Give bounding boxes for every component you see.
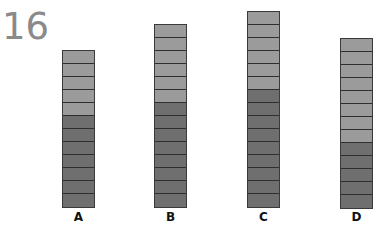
dark-segment (248, 103, 279, 116)
dark-segment (155, 103, 186, 116)
light-segment (63, 103, 94, 116)
light-segment (155, 51, 186, 64)
dark-segment (63, 168, 94, 181)
dark-segment (63, 129, 94, 142)
dark-segment (63, 142, 94, 155)
dark-segment (63, 155, 94, 168)
dark-segment (341, 143, 372, 156)
dark-segment (341, 169, 372, 182)
dark-segment (248, 129, 279, 142)
light-segment (155, 38, 186, 51)
dark-segment (248, 155, 279, 168)
dark-segment (341, 182, 372, 195)
column-label-c: C (247, 210, 280, 224)
dark-segment (248, 168, 279, 181)
column-a (62, 50, 95, 208)
light-segment (341, 117, 372, 130)
dark-segment (248, 194, 279, 207)
dark-segment (155, 142, 186, 155)
dark-segment (63, 181, 94, 194)
light-segment (63, 77, 94, 90)
light-segment (155, 77, 186, 90)
light-segment (63, 51, 94, 64)
dark-segment (155, 155, 186, 168)
light-segment (248, 38, 279, 51)
dark-segment (341, 156, 372, 169)
light-segment (248, 64, 279, 77)
column-label-b: B (154, 210, 187, 224)
dark-segment (155, 168, 186, 181)
light-segment (155, 90, 186, 103)
column-label-d: D (340, 210, 373, 224)
dark-segment (155, 194, 186, 207)
light-segment (248, 77, 279, 90)
dark-segment (155, 116, 186, 129)
dark-segment (248, 90, 279, 103)
dark-segment (341, 195, 372, 208)
light-segment (248, 12, 279, 25)
light-segment (341, 39, 372, 52)
light-segment (63, 64, 94, 77)
light-segment (155, 25, 186, 38)
light-segment (341, 91, 372, 104)
dark-segment (248, 142, 279, 155)
dark-segment (155, 129, 186, 142)
light-segment (341, 65, 372, 78)
light-segment (341, 52, 372, 65)
light-segment (63, 90, 94, 103)
dark-segment (248, 181, 279, 194)
column-label-a: A (62, 210, 95, 224)
light-segment (341, 130, 372, 143)
light-segment (341, 78, 372, 91)
light-segment (248, 25, 279, 38)
column-d (340, 38, 373, 209)
question-number: 16 (2, 7, 49, 47)
dark-segment (155, 181, 186, 194)
column-c (247, 11, 280, 208)
light-segment (155, 64, 186, 77)
dark-segment (63, 194, 94, 207)
dark-segment (248, 116, 279, 129)
dark-segment (63, 116, 94, 129)
light-segment (248, 51, 279, 64)
column-b (154, 24, 187, 208)
light-segment (341, 104, 372, 117)
